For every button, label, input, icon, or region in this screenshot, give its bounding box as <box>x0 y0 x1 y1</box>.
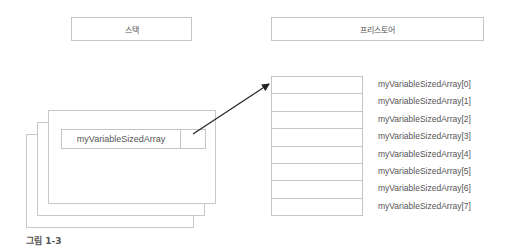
pointer-arrow-icon <box>0 0 507 250</box>
figure-caption: 그림 1-3 <box>26 234 61 247</box>
